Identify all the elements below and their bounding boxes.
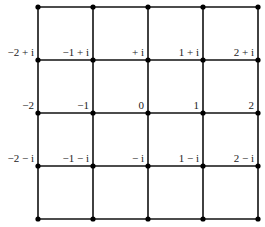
point-label: −1 [77,99,89,111]
point-label: 2 − i [234,152,254,164]
lattice-point [90,216,95,221]
lattice-point [200,57,205,62]
lattice-diagram: −2 + i−1 + i+ i1 + i2 + i−2−1012−2 − i−1… [0,0,265,227]
lattice-point [200,4,205,9]
lattice-point [145,216,150,221]
lattice-point [255,110,260,115]
lattice-point [145,4,150,9]
lattice-point [35,163,40,168]
point-label: 1 − i [179,152,199,164]
point-label: −2 [22,99,34,111]
point-label: −1 − i [63,152,89,164]
point-labels: −2 + i−1 + i+ i1 + i2 + i−2−1012−2 − i−1… [8,46,254,164]
lattice-point [35,110,40,115]
lattice-point [255,57,260,62]
point-label: 1 + i [179,46,199,58]
lattice-point [145,57,150,62]
lattice-point [35,216,40,221]
lattice-point [200,216,205,221]
lattice-point [200,163,205,168]
point-label: −2 + i [8,46,34,58]
lattice-point [255,216,260,221]
lattice-point [90,4,95,9]
lattice-point [35,57,40,62]
lattice-point [90,110,95,115]
lattice-point [35,4,40,9]
point-label: −1 + i [63,46,89,58]
lattice-point [90,57,95,62]
point-label: 2 [249,99,255,111]
lattice-point [145,110,150,115]
point-label: 0 [139,99,145,111]
point-label: 2 + i [234,46,254,58]
point-label: 1 [194,99,200,111]
lattice-point [255,163,260,168]
lattice-point [255,4,260,9]
lattice-point [200,110,205,115]
lattice-point [90,163,95,168]
lattice-point [145,163,150,168]
point-label: −2 − i [8,152,34,164]
point-label: − i [132,152,144,164]
point-label: + i [132,46,144,58]
